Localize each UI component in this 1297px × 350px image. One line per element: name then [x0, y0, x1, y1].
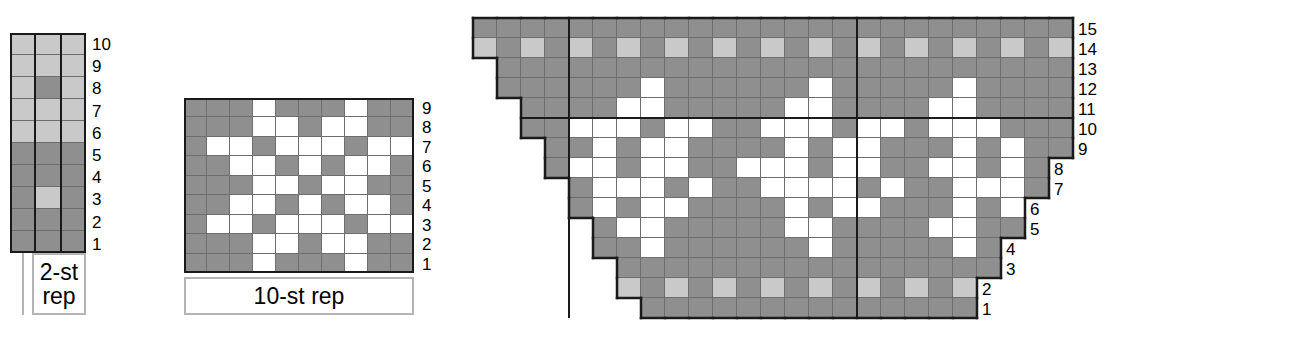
row-number: 11	[1078, 101, 1096, 118]
row-number: 14	[1078, 41, 1097, 58]
chart-cell	[184, 215, 207, 234]
chart-cell	[299, 137, 322, 156]
chart-cell	[299, 195, 322, 214]
chart-10st-rep-caption-box: 10-st rep	[184, 277, 414, 315]
chart-cell	[322, 156, 345, 175]
chart-cell	[345, 254, 368, 273]
chart-cell	[10, 143, 35, 165]
chart-cell	[253, 234, 276, 253]
chart-cell	[368, 254, 391, 273]
row-number: 1	[982, 301, 991, 318]
chart-cell	[368, 234, 391, 253]
chart-cell	[276, 215, 299, 234]
chart-cell	[391, 176, 414, 195]
chart-cell	[391, 117, 414, 136]
chart-cell	[61, 231, 86, 253]
chart-cell	[322, 137, 345, 156]
chart-cell	[391, 234, 414, 253]
chart-cell	[276, 98, 299, 117]
chart-cell	[230, 195, 253, 214]
row-number: 7	[1054, 181, 1063, 198]
row-number: 9	[422, 100, 431, 117]
row-number: 6	[1030, 201, 1039, 218]
row-number: 5	[422, 178, 431, 195]
chart-cell	[368, 156, 391, 175]
row-number: 3	[1006, 261, 1015, 278]
chart-10st-rep	[184, 98, 414, 273]
row-number: 8	[422, 119, 431, 136]
row-number: 2	[982, 281, 991, 298]
row-number: 4	[422, 197, 431, 214]
chart-cell	[276, 137, 299, 156]
row-number: 5	[92, 147, 101, 164]
chart-cell	[345, 234, 368, 253]
row-number: 1	[92, 236, 101, 253]
chart-cell	[299, 98, 322, 117]
chart-cell	[61, 55, 86, 77]
chart-cell	[368, 176, 391, 195]
chart-cell	[322, 254, 345, 273]
row-number: 12	[1078, 81, 1097, 98]
chart-cell	[345, 195, 368, 214]
heavy-rule-vertical	[34, 33, 36, 253]
row-number: 8	[92, 80, 101, 97]
chart-cell	[299, 117, 322, 136]
chart-cell	[10, 33, 35, 55]
chart-cell	[10, 99, 35, 121]
heavy-rule-vertical	[60, 33, 62, 253]
chart-cell	[184, 234, 207, 253]
chart-cell	[35, 33, 60, 55]
chart-cell	[299, 176, 322, 195]
chart-cell	[230, 137, 253, 156]
chart-cell	[35, 121, 60, 143]
row-number: 3	[92, 191, 101, 208]
chart-cell	[368, 195, 391, 214]
chart-cell	[322, 215, 345, 234]
chart-cell	[345, 215, 368, 234]
chart-cell	[253, 156, 276, 175]
chart-cell	[276, 234, 299, 253]
chart-cell	[299, 156, 322, 175]
row-number: 10	[1078, 121, 1097, 138]
chart-cell	[184, 156, 207, 175]
chart-cell	[35, 77, 60, 99]
chart-cell	[61, 33, 86, 55]
row-number: 9	[1078, 141, 1087, 158]
chart-cell	[230, 98, 253, 117]
chart-cell	[345, 176, 368, 195]
chart-cell	[35, 209, 60, 231]
chart-cell	[322, 98, 345, 117]
chart-cell	[10, 121, 35, 143]
chart-cell	[391, 137, 414, 156]
chart-cell	[10, 209, 35, 231]
chart-cell	[35, 55, 60, 77]
chart-cell	[368, 117, 391, 136]
chart-2st-rep-caption-box: 2-st rep	[32, 253, 86, 315]
chart-cell	[253, 215, 276, 234]
chart-cell	[207, 98, 230, 117]
chart-cell	[322, 176, 345, 195]
chart-cell	[276, 176, 299, 195]
chart-cell	[35, 143, 60, 165]
chart-cell	[10, 187, 35, 209]
chart-cell	[61, 187, 86, 209]
chart-cell	[276, 195, 299, 214]
row-number: 15	[1078, 21, 1097, 38]
chart-cell	[230, 156, 253, 175]
chart-cell	[61, 209, 86, 231]
chart-cell	[391, 215, 414, 234]
chart-cell	[35, 231, 60, 253]
chart-cell	[230, 215, 253, 234]
chart-cell	[253, 195, 276, 214]
chart-cell	[184, 176, 207, 195]
chart-cell	[391, 254, 414, 273]
chart-cell	[322, 117, 345, 136]
chart-cell	[345, 156, 368, 175]
chart-shaped	[473, 18, 1073, 318]
chart-cell	[35, 187, 60, 209]
chart-cell	[230, 117, 253, 136]
chart-cell	[276, 254, 299, 273]
chart-cell	[35, 99, 60, 121]
chart-cell	[322, 234, 345, 253]
chart-cell	[61, 165, 86, 187]
